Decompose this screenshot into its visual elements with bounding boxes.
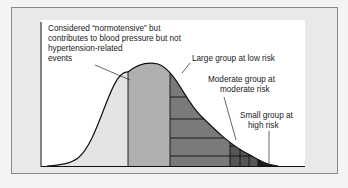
moderate-group-label-line1: Moderate group at xyxy=(208,75,275,85)
small-group-label-line1: Small group at xyxy=(240,111,293,121)
high-risk-region xyxy=(258,50,288,170)
normotensive-label-line2: contributes to blood pressure but not xyxy=(48,34,181,44)
low-risk-region xyxy=(170,50,230,170)
moderate-group-label-line2: moderate risk xyxy=(220,85,270,95)
normotensive-label-line1: Considered “normotensive” but xyxy=(48,24,160,34)
normotensive-label-line3: hypertension-related xyxy=(48,44,123,54)
normotensive-label-line4: events xyxy=(48,54,72,64)
large-group-label: Large group at low risk xyxy=(192,54,275,64)
small-group-label-line2: high risk xyxy=(248,121,279,131)
